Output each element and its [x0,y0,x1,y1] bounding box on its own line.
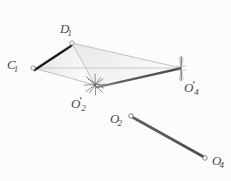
geometry-figure: C1 D1 O′2 O′4 O2 O4 [0,0,231,181]
label-o2-sub: 2 [117,118,122,128]
label-c1-sub: 1 [14,64,19,74]
label-o2: O2 [110,110,122,128]
label-o2-prime-sub: 2 [81,103,86,113]
label-o4: O4 [212,152,224,170]
quad-faces [33,43,181,85]
edge-o2-o4 [133,118,203,157]
label-o4-sub: 4 [219,160,224,170]
label-c1: C1 [7,56,18,74]
label-d1: D1 [60,20,72,38]
marker-o2 [129,114,133,118]
marker-o2p-center [94,84,96,86]
label-o4-prime-sub: 4 [194,87,199,97]
label-o4-prime: O′4 [184,79,199,97]
label-d1-sub: 1 [67,28,72,38]
marker-d1 [70,41,74,45]
marker-o4 [203,156,207,160]
label-o2-prime: O′2 [71,95,86,113]
marker-c1 [31,66,35,70]
